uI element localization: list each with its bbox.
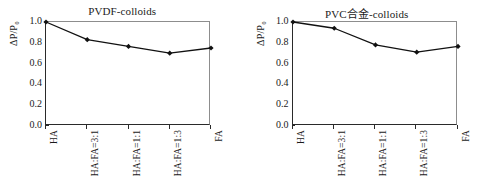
x-tick-label: HA:FA=1:3	[419, 130, 429, 176]
y-tick-label: 0.0	[276, 120, 289, 130]
x-tick-mark	[292, 125, 293, 129]
data-point-marker	[167, 51, 172, 56]
data-point-marker	[372, 42, 377, 47]
x-tick-mark	[415, 125, 416, 129]
data-point-marker	[126, 44, 131, 49]
y-tick-label: 0.0	[30, 120, 43, 130]
data-point-marker	[43, 19, 48, 24]
figure-two-panel-line-charts: PVDF-colloids ΔP/P₀ 0.00.20.40.60.81.0 H…	[0, 0, 489, 194]
data-point-marker	[290, 19, 295, 24]
y-tick-label: 0.4	[276, 78, 289, 88]
x-tick-label: HA:FA=1:1	[378, 130, 388, 176]
x-tick-mark	[374, 125, 375, 129]
y-tick-label: 0.2	[276, 99, 289, 109]
series-polyline	[293, 22, 458, 52]
series-line-pvc-alloy	[293, 22, 458, 126]
y-tick-label: 0.8	[276, 37, 289, 47]
data-point-marker	[85, 37, 90, 42]
y-tick-label-group: 0.00.20.40.60.81.0	[266, 0, 289, 194]
x-tick-label: HA:FA=3:1	[90, 130, 100, 176]
x-tick-label: FA	[461, 130, 471, 142]
x-tick-label: FA	[214, 130, 224, 142]
y-tick-label: 0.2	[30, 99, 43, 109]
x-tick-mark	[457, 125, 458, 129]
x-tick-label: HA:FA=1:1	[132, 130, 142, 176]
data-point-marker	[414, 50, 419, 55]
chart-panel-pvdf-colloids: PVDF-colloids ΔP/P₀ 0.00.20.40.60.81.0 H…	[0, 0, 245, 194]
x-tick-mark	[128, 125, 129, 129]
x-tick-mark	[210, 125, 211, 129]
y-axis-label: ΔP/P₀	[255, 21, 266, 46]
series-line-pvdf	[46, 22, 211, 126]
y-tick-label: 0.4	[30, 78, 43, 88]
x-tick-mark	[333, 125, 334, 129]
plot-area	[292, 21, 457, 125]
plot-area	[45, 21, 210, 125]
y-tick-label: 1.0	[276, 16, 289, 26]
y-tick-label: 1.0	[30, 16, 43, 26]
y-axis-label: ΔP/P₀	[8, 21, 19, 46]
x-tick-label: HA	[49, 130, 59, 144]
y-tick-label: 0.8	[30, 37, 43, 47]
y-tick-label: 0.6	[276, 58, 289, 68]
x-tick-label: HA:FA=3:1	[337, 130, 347, 176]
data-point-marker	[455, 44, 460, 49]
y-tick-label-group: 0.00.20.40.60.81.0	[19, 0, 42, 194]
chart-panel-pvc-alloy-colloids: PVC合金-colloids ΔP/P₀ 0.00.20.40.60.81.0 …	[245, 0, 489, 194]
x-tick-mark	[86, 125, 87, 129]
y-tick-label: 0.6	[30, 58, 43, 68]
data-point-marker	[331, 26, 336, 31]
x-tick-label: HA	[296, 130, 306, 144]
x-tick-label: HA:FA=1:3	[173, 130, 183, 176]
data-point-marker	[208, 45, 213, 50]
x-tick-mark	[169, 125, 170, 129]
x-tick-mark	[45, 125, 46, 129]
